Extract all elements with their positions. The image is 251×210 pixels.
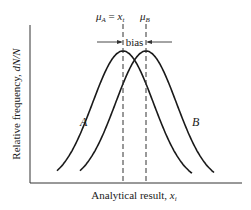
bias-arrowhead-left bbox=[117, 40, 123, 44]
x-axis-label: Analytical result, xi bbox=[91, 189, 176, 203]
bias-diagram: bias μA = xt μB A B Analytical result, x… bbox=[0, 0, 251, 210]
mean-a-label: μA = xt bbox=[95, 10, 125, 24]
mean-b-label: μB bbox=[139, 10, 151, 24]
bias-label: bias bbox=[126, 36, 144, 48]
curve-b bbox=[80, 51, 214, 173]
curve-b-label: B bbox=[192, 115, 200, 129]
bias-arrowhead-right bbox=[146, 40, 152, 44]
curve-a bbox=[57, 51, 192, 173]
curve-a-label: A bbox=[79, 115, 88, 129]
y-axis-label: Relative frequency, dN/N bbox=[10, 48, 22, 160]
